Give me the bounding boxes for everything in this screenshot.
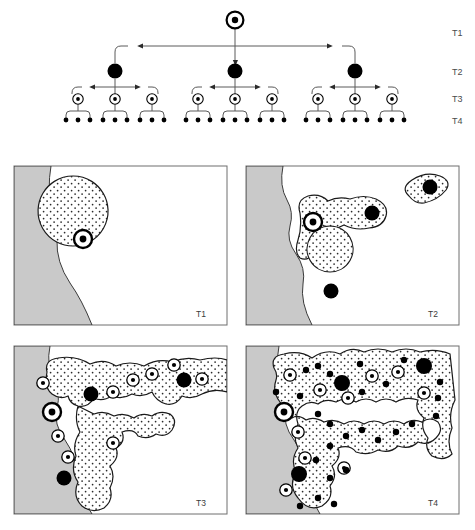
t3-node	[387, 94, 397, 104]
t3-node-map	[146, 368, 158, 380]
t4-node-map	[359, 427, 365, 433]
t3-node	[73, 94, 83, 104]
t4-node	[365, 118, 370, 123]
t4-node-map	[435, 395, 441, 401]
t4-node-map	[357, 361, 363, 367]
t3-node	[350, 94, 360, 104]
t4-node	[76, 118, 81, 123]
t4-node	[378, 118, 383, 123]
t4-node	[304, 118, 309, 123]
t4-node	[258, 118, 263, 123]
tier-label-t1: T1	[452, 28, 463, 38]
region-t2-south	[307, 226, 353, 272]
region-t1	[38, 176, 108, 246]
t4-node-map	[433, 413, 439, 419]
tree-node-origin	[227, 12, 244, 29]
t3-node-map	[62, 451, 74, 463]
t4-node-map	[315, 411, 321, 417]
t4-node	[88, 118, 93, 123]
t3-node-map	[127, 374, 139, 386]
t4-node	[64, 118, 69, 123]
t4-node	[125, 118, 130, 123]
t4-node	[208, 118, 213, 123]
t3-node-map	[52, 430, 64, 442]
t4-node-map	[315, 495, 321, 501]
t2-node-t4panel	[334, 375, 350, 391]
t4-node-map	[331, 501, 337, 507]
t4-node	[150, 118, 155, 123]
t3-node	[193, 94, 203, 104]
t4-node-map	[313, 457, 319, 463]
t3-node	[230, 94, 240, 104]
t4-node	[113, 118, 118, 123]
t2-node-t2panel	[324, 284, 339, 299]
origin-node-t2	[304, 213, 322, 231]
t3-node-map	[418, 387, 430, 399]
t3-node-map	[280, 484, 292, 496]
t3-node-map	[292, 426, 304, 438]
t4-node	[341, 118, 346, 123]
t4-node-map	[375, 437, 381, 443]
t3-node-map	[342, 392, 354, 404]
t3-node	[110, 94, 120, 104]
t3-node-map	[366, 370, 378, 382]
t4-node	[221, 118, 226, 123]
tier-labels: T1 T2 T3 T4	[452, 28, 463, 126]
t3-node-map	[196, 373, 208, 385]
t3-node-map	[168, 359, 180, 371]
t4-node-map	[393, 429, 399, 435]
t4-node-map	[359, 389, 365, 395]
t4-node	[402, 118, 407, 123]
t4-node	[270, 118, 275, 123]
t2-node-t3panel	[177, 373, 192, 388]
t4-node	[353, 118, 358, 123]
t2-node-t2panel	[365, 206, 380, 221]
t3-node-map	[392, 366, 404, 378]
tree-diagram: T1 T2 T3 T4	[64, 12, 463, 126]
figure-root: T1 T2 T3 T4 T1	[0, 0, 475, 530]
t4-node	[101, 118, 106, 123]
t3-node-map	[284, 369, 296, 381]
t4-node	[196, 118, 201, 123]
t2-node	[108, 64, 123, 79]
origin-node-t1	[74, 230, 92, 248]
t4-node	[282, 118, 287, 123]
t4-node-map	[327, 475, 333, 481]
t4-node-map	[297, 393, 303, 399]
tree-nodes-t3	[73, 94, 397, 104]
tier-label-t4: T4	[452, 116, 463, 126]
t4-node-map	[327, 443, 333, 449]
t2-node-t4panel	[416, 358, 432, 374]
panel-t3: T3	[14, 346, 227, 514]
t4-node	[184, 118, 189, 123]
tree-links-t2-t3	[72, 79, 398, 94]
t4-node-map	[383, 381, 389, 387]
t4-node-map	[343, 433, 349, 439]
t4-node	[328, 118, 333, 123]
panel-label-t3: T3	[196, 498, 206, 508]
t4-node	[245, 118, 250, 123]
t4-node-map	[401, 357, 407, 363]
t2-node-t4panel	[291, 466, 307, 482]
t4-node-map	[303, 367, 309, 373]
t4-node-map	[297, 503, 303, 509]
t2-node-t3panel	[57, 471, 72, 486]
t4-node	[390, 118, 395, 123]
t3-node	[267, 94, 277, 104]
t4-node	[138, 118, 143, 123]
panel-label-t1: T1	[196, 309, 206, 319]
t3-node	[147, 94, 157, 104]
t3-node-map	[37, 377, 49, 389]
t4-node-map	[327, 421, 333, 427]
panel-label-t2: T2	[428, 309, 438, 319]
t4-node	[162, 118, 167, 123]
t4-node-map	[273, 389, 279, 395]
t2-node-t2panel	[423, 180, 438, 195]
origin-node-t3	[43, 403, 61, 421]
t3-node-map	[107, 437, 119, 449]
panel-t2: T2	[246, 166, 459, 325]
panel-t4: T4	[246, 346, 459, 514]
tree-nodes-t4	[64, 118, 407, 123]
t3-node-map	[107, 386, 119, 398]
t4-node-map	[315, 363, 321, 369]
